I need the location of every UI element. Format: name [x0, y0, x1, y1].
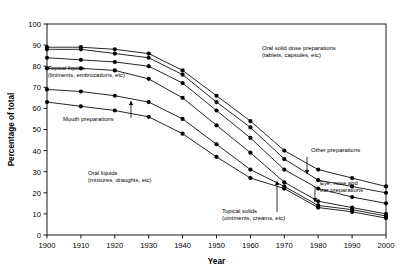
data-point-marker	[316, 199, 320, 203]
data-point-marker	[181, 73, 185, 77]
data-point-marker	[214, 155, 218, 159]
x-axis-tick-label: 1950	[208, 241, 225, 250]
data-point-marker	[248, 125, 252, 129]
plot-frame	[47, 24, 386, 235]
data-point-marker	[147, 51, 151, 55]
data-point-marker	[214, 142, 218, 146]
annotation-text: Topical liquids	[48, 65, 85, 71]
data-point-marker	[282, 157, 286, 161]
data-point-marker	[113, 94, 117, 98]
data-point-marker	[350, 195, 354, 199]
data-point-marker	[282, 186, 286, 190]
x-axis-tick-label: 1900	[39, 241, 56, 250]
data-point-marker	[248, 119, 252, 123]
data-point-marker	[113, 108, 117, 112]
x-axis-tick-label: 1940	[174, 241, 191, 250]
y-axis-tick-label: 0	[37, 231, 41, 240]
data-point-marker	[79, 58, 83, 62]
y-axis-tick-label: 10	[33, 210, 41, 219]
x-axis-tick-label: 1980	[310, 241, 327, 250]
y-axis-tick-label: 20	[33, 189, 41, 198]
data-point-marker	[384, 216, 388, 220]
y-axis-tick-label: 90	[33, 41, 41, 50]
y-axis-title: Percentage of total	[7, 93, 16, 167]
data-point-marker	[316, 167, 320, 171]
data-point-marker	[214, 123, 218, 127]
y-axis-tick-label: 70	[33, 83, 41, 92]
data-point-marker	[282, 149, 286, 153]
y-axis-tick-label: 50	[33, 125, 41, 134]
annotation-text: Mouth preparations	[63, 116, 114, 122]
annotation-text: Eye, nose and	[320, 180, 358, 186]
data-point-marker	[181, 117, 185, 121]
data-point-marker	[45, 100, 49, 104]
data-point-marker	[181, 132, 185, 136]
data-point-marker	[214, 94, 218, 98]
y-axis-tick-label: 100	[28, 20, 41, 29]
data-point-marker	[248, 151, 252, 155]
x-axis-tick-label: 1920	[106, 241, 123, 250]
annotation-text: (tablets, capsules, etc)	[262, 52, 321, 58]
y-axis-tick-label: 30	[33, 168, 41, 177]
data-point-marker	[113, 60, 117, 64]
x-axis-tick-label: 1910	[72, 241, 89, 250]
data-point-marker	[147, 56, 151, 60]
data-point-marker	[79, 104, 83, 108]
data-point-marker	[384, 184, 388, 188]
data-point-marker	[248, 167, 252, 171]
data-point-marker	[79, 89, 83, 93]
chart-figure: 0102030405060708090100190019101920193019…	[0, 0, 411, 274]
data-point-marker	[113, 47, 117, 51]
annotation-text: ear preparations	[320, 187, 363, 193]
x-axis-tick-label: 2000	[378, 241, 395, 250]
data-point-marker	[45, 47, 49, 51]
annotation-text: Other preparations	[311, 147, 360, 153]
x-axis-tick-label: 1960	[242, 241, 259, 250]
annotation-text: Topical solids	[222, 208, 257, 214]
data-point-marker	[79, 47, 83, 51]
data-point-marker	[282, 180, 286, 184]
data-point-marker	[214, 100, 218, 104]
x-axis-tick-label: 1990	[344, 241, 361, 250]
y-axis-tick-label: 40	[33, 147, 41, 156]
data-point-marker	[147, 77, 151, 81]
x-axis-tick-label: 1970	[276, 241, 293, 250]
annotation-text: (mixtures, draughts, etc)	[88, 177, 152, 183]
data-point-marker	[147, 100, 151, 104]
x-axis-tick-label: 1930	[140, 241, 157, 250]
data-point-marker	[113, 51, 117, 55]
annotation-text: Oral liquids	[88, 170, 118, 176]
data-point-marker	[45, 87, 49, 91]
data-point-marker	[248, 176, 252, 180]
y-axis-tick-label: 80	[33, 62, 41, 71]
data-point-marker	[181, 68, 185, 72]
data-point-marker	[181, 96, 185, 100]
data-point-marker	[316, 205, 320, 209]
data-point-marker	[181, 81, 185, 85]
annotation-text: Oral solid dose preparations	[262, 45, 336, 51]
y-axis-tick-label: 60	[33, 104, 41, 113]
data-point-marker	[248, 136, 252, 140]
x-axis-title: Year	[208, 257, 226, 266]
line-chart-percentage-of-total: 0102030405060708090100190019101920193019…	[0, 0, 411, 274]
data-point-marker	[350, 210, 354, 214]
data-point-marker	[147, 64, 151, 68]
data-point-marker	[45, 56, 49, 60]
data-point-marker	[384, 191, 388, 195]
annotation-text: (ointments, creams, etc)	[222, 215, 285, 221]
annotation-text: (liniments, embrocations, etc)	[48, 72, 125, 78]
data-point-marker	[282, 167, 286, 171]
data-point-marker	[147, 115, 151, 119]
data-point-marker	[384, 201, 388, 205]
data-point-marker	[214, 108, 218, 112]
